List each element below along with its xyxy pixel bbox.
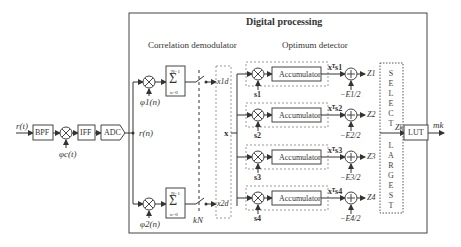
select-letter: L [386, 141, 396, 150]
s4-label: s4 [254, 214, 261, 224]
phi2-label: φ2(n) [140, 219, 160, 229]
input-signal-label: r(t) [16, 121, 28, 131]
select-letter: E [386, 99, 396, 108]
select-letter: S [386, 191, 396, 200]
accumulator-2: Accumulator [279, 111, 321, 121]
z2-label: Z2 [367, 110, 375, 120]
x-vector-label: x [224, 128, 229, 138]
z3-label: Z3 [367, 152, 375, 162]
bias-3: −E3/2 [340, 173, 361, 183]
z1-label: Z1 [367, 69, 375, 79]
rn-label: r(n) [139, 128, 153, 138]
select-letter: G [386, 171, 396, 180]
sum2-bottom: n=0 [170, 210, 178, 220]
bias-1: −E1/2 [340, 90, 361, 100]
sum1-symbol: Σ [169, 72, 177, 86]
select-letter: E [386, 79, 396, 88]
bpf-block: BPF [35, 128, 49, 138]
sum2-symbol: Σ [169, 194, 177, 208]
optimum-detector-label: Optimum detector [282, 40, 348, 50]
digital-processing-title: Digital processing [246, 17, 322, 27]
select-letter: E [386, 181, 396, 190]
sample-kn-label: kN [193, 215, 203, 225]
select-letter: S [386, 69, 396, 78]
s2-label: s2 [254, 131, 261, 141]
zk-label: Zk [395, 123, 403, 133]
select-letter: C [386, 109, 396, 118]
sum1-bottom: n=0 [170, 88, 178, 98]
lut-block: LUT [408, 128, 424, 138]
select-letter: L [386, 89, 396, 98]
adc-block: ADC [104, 128, 121, 138]
phi1-label: φ1(n) [140, 97, 160, 107]
mk-output-label: mk [433, 120, 444, 130]
accumulator-4: Accumulator [279, 194, 321, 204]
select-letter: A [386, 151, 396, 160]
lo-label: φc(t) [59, 149, 76, 159]
xts4-label: xᵀs4 [328, 187, 342, 197]
iff-block: IFF [80, 128, 92, 138]
accumulator-3: Accumulator [279, 153, 321, 163]
xts2-label: xᵀs2 [328, 104, 342, 114]
select-letter: T [386, 201, 396, 210]
s1-label: s1 [254, 90, 261, 100]
x2d-label: x2d [217, 199, 229, 209]
z4-label: Z4 [367, 193, 375, 203]
xts3-label: xᵀs3 [328, 146, 342, 156]
x1d-label: x1d [217, 77, 229, 87]
bias-4: −E4/2 [340, 214, 361, 224]
accumulator-1: Accumulator [279, 70, 321, 80]
select-letter: R [386, 161, 396, 170]
bias-2: −E2/2 [340, 131, 361, 141]
xts1-label: xᵀs1 [328, 63, 342, 73]
s3-label: s3 [254, 173, 261, 183]
correlation-demodulator-label: Correlation demodulator [148, 40, 237, 50]
